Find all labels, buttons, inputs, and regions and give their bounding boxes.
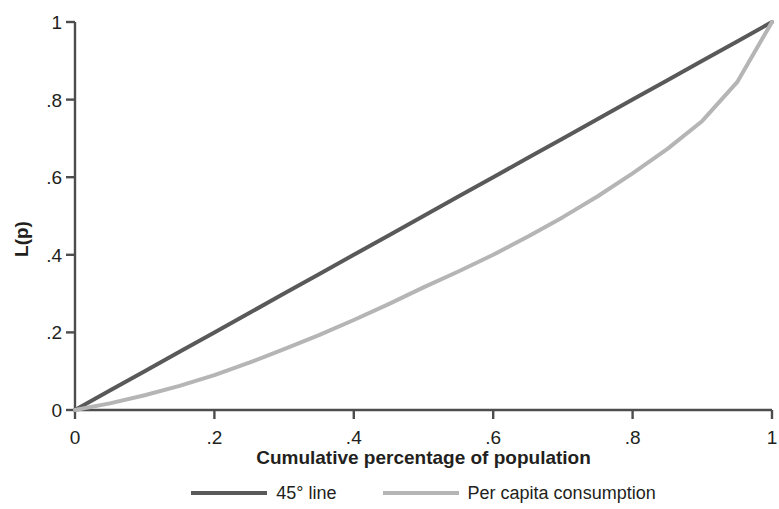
x-axis-tick-label: 0 bbox=[70, 428, 81, 447]
y-axis-tick-label: .2 bbox=[14, 323, 62, 342]
x-axis-tick-label: .8 bbox=[625, 428, 641, 447]
x-axis-tick-label: 1 bbox=[767, 428, 778, 447]
legend-line-swatch-icon bbox=[191, 491, 267, 495]
x-axis-tick-label: .2 bbox=[206, 428, 222, 447]
data-series-group bbox=[75, 22, 772, 410]
y-axis-tick-label: 0 bbox=[14, 401, 62, 420]
legend-item: Per capita consumption bbox=[383, 484, 656, 502]
x-axis-tick-label: .6 bbox=[485, 428, 501, 447]
legend-item-label: Per capita consumption bbox=[468, 484, 656, 502]
series-line-45-degree bbox=[75, 22, 772, 410]
y-axis-tick-label: .8 bbox=[14, 90, 62, 109]
y-axis-tick-label: .6 bbox=[14, 168, 62, 187]
legend-item: 45° line bbox=[191, 484, 336, 502]
x-axis-ticks bbox=[75, 410, 772, 419]
lorenz-curve-figure: 0.2.4.6.81 0.2.4.6.81 L(p) Cumulative pe… bbox=[0, 0, 779, 509]
legend-item-label: 45° line bbox=[276, 484, 336, 502]
chart-legend: 45° linePer capita consumption bbox=[75, 484, 772, 502]
x-axis-title: Cumulative percentage of population bbox=[75, 447, 772, 469]
legend-line-swatch-icon bbox=[383, 491, 459, 495]
y-axis-title: L(p) bbox=[11, 199, 33, 279]
x-axis-tick-label: .4 bbox=[346, 428, 362, 447]
y-axis-ticks bbox=[66, 22, 75, 410]
y-axis-tick-label: 1 bbox=[14, 13, 62, 32]
plot-canvas bbox=[0, 0, 779, 509]
